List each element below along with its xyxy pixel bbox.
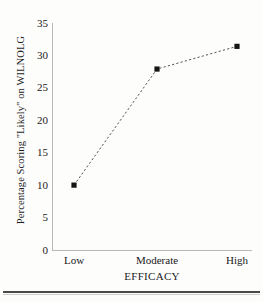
page-footer-rule xyxy=(3,291,260,293)
data-series-layer xyxy=(0,0,263,302)
data-point-marker xyxy=(234,44,239,49)
data-point-marker xyxy=(154,66,159,71)
data-point-marker xyxy=(71,183,76,188)
page-footer-rule-shadow xyxy=(3,294,260,295)
chart-figure: 05101520253035 LowModerateHigh Percentag… xyxy=(0,0,263,302)
series-markers xyxy=(71,44,239,188)
